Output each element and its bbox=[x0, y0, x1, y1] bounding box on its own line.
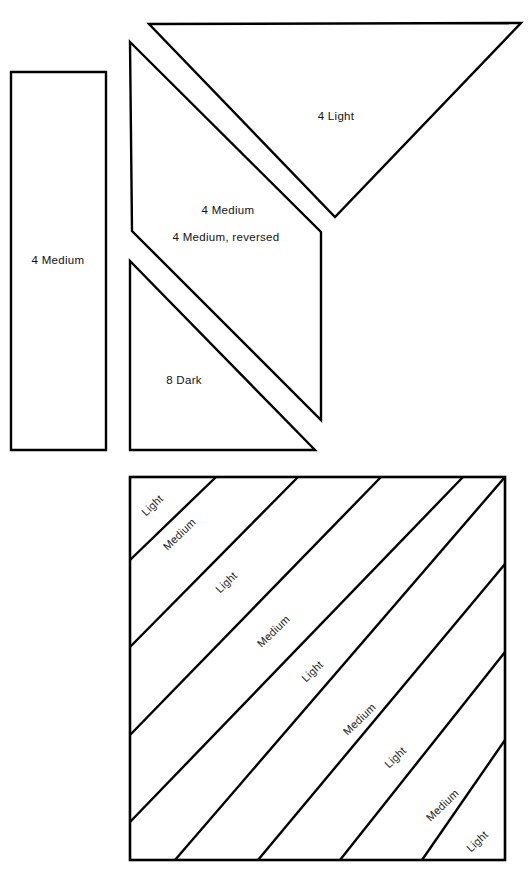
parallelogram-label-primary: 4 Medium bbox=[202, 204, 255, 216]
piece-strip-rectangle: 4 Medium bbox=[11, 72, 106, 450]
dark-triangle-label: 8 Dark bbox=[166, 374, 202, 386]
large-triangle-label: 4 Light bbox=[318, 110, 355, 122]
quilt-pattern-page: 4 Medium 4 Light 4 Medium 4 Medium, reve… bbox=[0, 0, 528, 879]
parallelogram-label-secondary: 4 Medium, reversed bbox=[172, 231, 279, 243]
strip-rectangle-label: 4 Medium bbox=[32, 254, 85, 266]
pattern-drawing: 4 Medium 4 Light 4 Medium 4 Medium, reve… bbox=[0, 0, 528, 879]
striped-block-group: LightMediumLightMediumLightMediumLightMe… bbox=[130, 477, 505, 860]
cutting-pieces-group: 4 Medium 4 Light 4 Medium 4 Medium, reve… bbox=[11, 23, 521, 450]
